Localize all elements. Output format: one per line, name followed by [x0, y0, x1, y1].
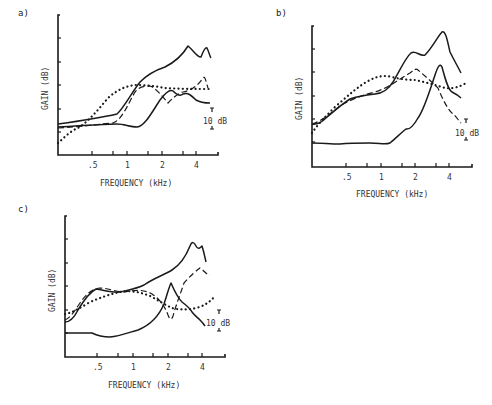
panel-c-ylabel: GAIN (dB) [48, 269, 57, 312]
panel-c-scale-label: 10 dB [206, 319, 230, 328]
panel-a-ylabel: GAIN (dB) [41, 67, 50, 110]
panel-a-tick-1: 1 [125, 161, 130, 170]
panel-c-dashed [65, 268, 210, 320]
panel-c: c) .5 1 2 4 FREQUENCY (kHz) GAIN (dB) 10… [18, 204, 230, 390]
panel-c-tick-2: 2 [166, 363, 171, 372]
panel-c-tick-1: 1 [131, 363, 136, 372]
panel-b-tick-2: 2 [413, 173, 418, 182]
panel-c-axes [65, 216, 225, 357]
panel-a-xlabel: FREQUENCY (kHz) [100, 179, 172, 188]
panel-b-scale-label: 10 dB [455, 129, 479, 138]
panel-b-label: b) [276, 8, 287, 18]
panel-c-xlabel: FREQUENCY (kHz) [108, 381, 180, 390]
panel-c-dotted [65, 291, 215, 314]
panel-a: a) .5 1 2 4 FREQUENCY (kHz) GAIN (dB) 10… [18, 8, 227, 188]
panel-a-solid-1 [58, 46, 211, 124]
panel-a-solid-2 [58, 90, 210, 127]
panel-c-tick-05: .5 [93, 363, 103, 372]
panel-a-label: a) [18, 8, 29, 18]
panel-b-dashed [312, 69, 461, 124]
panel-b-solid-2 [312, 65, 461, 144]
panel-b-tick-05: .5 [342, 173, 352, 182]
panel-c-label: c) [18, 204, 29, 214]
panel-b-axes [312, 26, 472, 167]
panel-c-tick-4: 4 [200, 363, 205, 372]
panel-b-dotted [312, 76, 466, 133]
panel-a-tick-4: 4 [194, 161, 199, 170]
panel-c-solid-2 [65, 283, 205, 337]
panel-b-xlabel: FREQUENCY (kHz) [356, 190, 428, 199]
panel-b-ylabel: GAIN (dB) [295, 77, 304, 120]
panel-a-scale-label: 10 dB [203, 117, 227, 126]
panel-b-solid-1 [312, 32, 461, 124]
figure: a) .5 1 2 4 FREQUENCY (kHz) GAIN (dB) 10… [0, 0, 492, 405]
panel-b-tick-1: 1 [379, 173, 384, 182]
panel-b: b) .5 1 2 4 FREQUENCY (kHz) GAIN (dB) 10… [276, 8, 479, 199]
panel-b-tick-4: 4 [447, 173, 452, 182]
panel-a-tick-2: 2 [160, 161, 165, 170]
panel-a-tick-05: .5 [88, 161, 98, 170]
